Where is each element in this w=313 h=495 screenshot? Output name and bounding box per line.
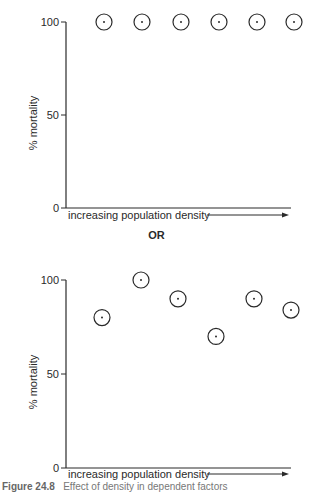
data-point xyxy=(173,14,189,30)
data-point xyxy=(94,310,110,326)
x-axis-label: increasing population density xyxy=(68,468,210,480)
y-tick-label: 50 xyxy=(47,368,59,380)
chart-top: 050100% mortalityincreasing population d… xyxy=(27,14,302,221)
y-axis-label: % mortality xyxy=(27,95,39,150)
chart-bottom: 050100% mortalityincreasing population d… xyxy=(27,272,299,480)
y-tick-label: 0 xyxy=(53,462,59,474)
y-tick-label: 100 xyxy=(41,274,59,286)
figure-caption: Figure 24.8 Effect of density in depende… xyxy=(2,481,228,492)
data-point xyxy=(211,14,227,30)
x-axis-label: increasing population density xyxy=(68,209,210,221)
or-separator: OR xyxy=(0,229,313,241)
figure-caption-text: Effect of density in dependent factors xyxy=(63,481,227,492)
chart-area: 050100% mortalityincreasing population d… xyxy=(0,0,313,495)
data-point xyxy=(208,328,224,344)
y-tick-label: 100 xyxy=(41,16,59,28)
arrowhead-icon xyxy=(282,472,289,477)
data-point xyxy=(134,14,150,30)
data-point xyxy=(96,14,112,30)
data-point xyxy=(286,14,302,30)
arrowhead-icon xyxy=(282,213,289,218)
data-point xyxy=(133,272,149,288)
y-tick-label: 0 xyxy=(53,202,59,214)
data-point xyxy=(249,14,265,30)
data-point xyxy=(246,291,262,307)
data-point xyxy=(283,302,299,318)
data-point xyxy=(170,291,186,307)
y-tick-label: 50 xyxy=(47,109,59,121)
y-axis-label: % mortality xyxy=(27,354,39,409)
figure-number: Figure 24.8 xyxy=(2,481,55,492)
